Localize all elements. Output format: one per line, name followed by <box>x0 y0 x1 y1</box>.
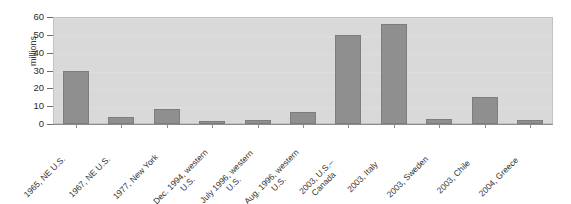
bar-chart: millions 0102030405060 1965, NE U.S.1967… <box>0 0 571 204</box>
x-axis-labels: 1965, NE U.S.1967, NE U.S.1977, New York… <box>0 0 571 204</box>
